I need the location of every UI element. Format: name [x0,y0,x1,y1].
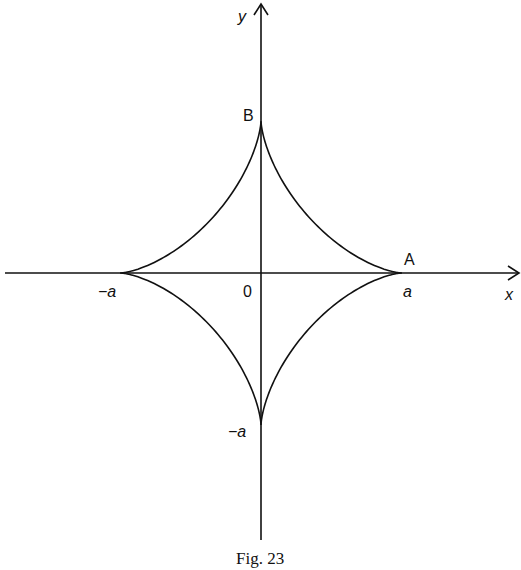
figure-caption: Fig. 23 [236,549,284,568]
y-axis-label: y [237,8,247,25]
astroid-diagram: y x 0 A a −a B −a Fig. 23 [0,0,521,570]
point-a-label: A [404,251,415,268]
origin-label: 0 [243,283,252,300]
x-axis-label: x [504,286,514,303]
point-b-label: B [243,107,254,124]
neg-a-x-tick-label: −a [98,283,116,300]
neg-a-y-tick-label: −a [228,423,246,440]
a-tick-label: a [403,283,412,300]
